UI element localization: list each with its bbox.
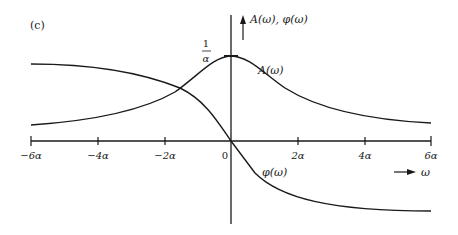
- panel-label: (c): [30, 19, 45, 32]
- y-axis-arrow-icon: [240, 15, 246, 40]
- y-axis-label: A(ω), φ(ω): [249, 13, 308, 26]
- peak-label-numerator: 1: [203, 38, 209, 49]
- svg-text:−2α: −2α: [154, 150, 176, 161]
- x-axis-label: ω: [421, 166, 430, 179]
- x-axis-arrow-icon: [394, 169, 416, 175]
- svg-text:4α: 4α: [357, 150, 371, 161]
- svg-text:−4α: −4α: [87, 150, 109, 161]
- phase-curve-label: φ(ω): [262, 166, 287, 179]
- amplitude-curve-label: A(ω): [257, 64, 284, 77]
- svg-text:0: 0: [222, 150, 228, 161]
- svg-text:6α: 6α: [424, 150, 437, 161]
- diagram-canvas: (c) A(ω), φ(ω) 1 α A(ω) φ(ω) ω −6α −4α −…: [0, 0, 458, 235]
- x-tick-labels: −6α −4α −2α 0 2α 4α 6α: [20, 150, 438, 161]
- svg-text:−6α: −6α: [20, 150, 42, 161]
- peak-label-denominator: α: [203, 53, 210, 64]
- svg-text:2α: 2α: [290, 150, 304, 161]
